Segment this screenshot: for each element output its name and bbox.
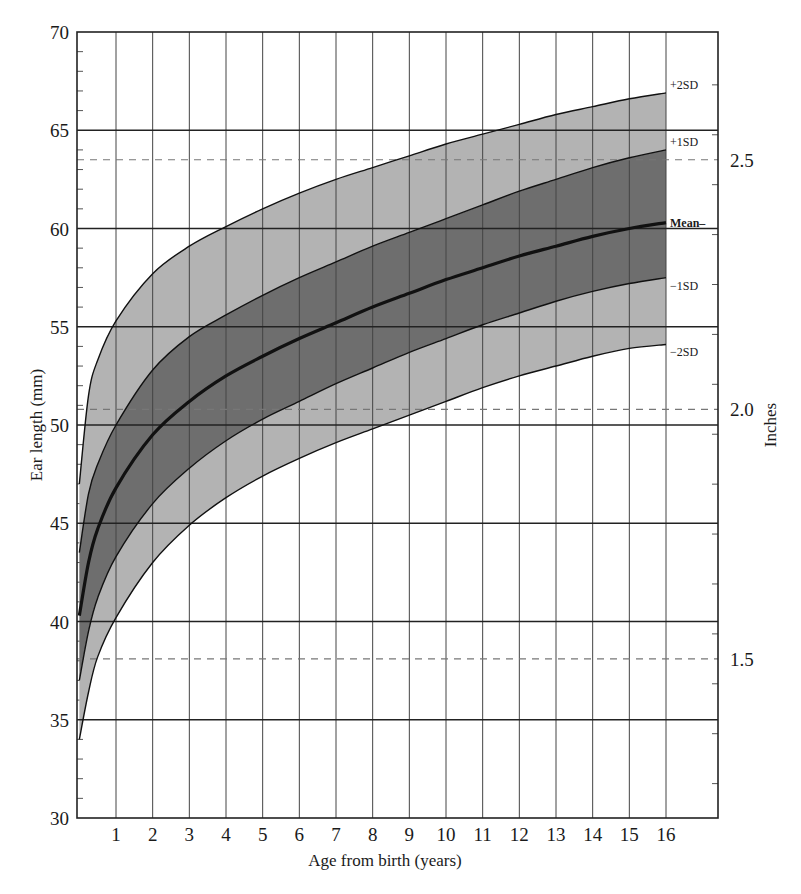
y-axis-tick-labels: 303540455055606570 [50,22,69,829]
y-tick-label: 50 [50,415,69,436]
y2-axis-tick-labels: 1.52.02.5 [730,150,754,670]
x-tick-label: 8 [368,824,378,845]
y-tick-label: 45 [50,513,69,534]
y-tick-label: 60 [50,219,69,240]
y-tick-label: 70 [50,22,69,43]
x-axis-title: Age from birth (years) [308,851,461,870]
x-tick-label: 4 [221,824,231,845]
series-label: +2SD [670,78,698,92]
y-tick-label: 35 [50,710,69,731]
ear-length-chart: 303540455055606570 1.52.02.5 12345678910… [0,0,801,894]
x-tick-label: 5 [258,824,268,845]
y-tick-label: 65 [50,120,69,141]
y-axis-title: Ear length (mm) [27,369,46,481]
x-tick-label: 2 [148,824,158,845]
y2-tick-label: 2.5 [730,150,754,171]
x-axis-tick-labels: 12345678910111213141516 [111,824,675,845]
x-tick-label: 1 [111,824,121,845]
x-tick-label: 11 [474,824,492,845]
y2-tick-label: 1.5 [730,649,754,670]
x-tick-label: 3 [185,824,195,845]
x-tick-label: 7 [331,824,341,845]
series-labels: +2SD+1SDMean–−1SD−2SD [670,78,706,360]
y2-axis-title: Inches [761,403,780,447]
x-tick-label: 14 [583,824,603,845]
x-tick-label: 6 [295,824,305,845]
x-tick-label: 12 [510,824,529,845]
x-tick-label: 15 [620,824,639,845]
series-label: +1SD [670,135,698,149]
y-tick-label: 40 [50,612,69,633]
y-tick-label: 55 [50,317,69,338]
x-tick-label: 13 [547,824,566,845]
series-label: −1SD [670,279,698,293]
x-tick-label: 16 [657,824,676,845]
x-tick-label: 10 [437,824,456,845]
series-label: −2SD [670,345,698,359]
x-tick-label: 9 [405,824,415,845]
y-tick-label: 30 [50,808,69,829]
y2-tick-label: 2.0 [730,399,754,420]
series-label: Mean– [670,216,706,230]
